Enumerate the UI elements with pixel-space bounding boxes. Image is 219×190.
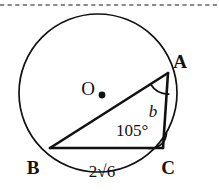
angle-label-c: 105° <box>116 121 148 140</box>
circle-center-dot <box>99 92 106 99</box>
side-label-ca: b <box>149 102 158 121</box>
circle-center-label: O <box>81 78 95 99</box>
vertex-label-b: B <box>27 157 40 178</box>
figure-canvas: O A B C 2√6 b 105° <box>0 0 219 190</box>
vertex-label-c: C <box>161 157 175 178</box>
vertex-label-a: A <box>173 51 187 72</box>
side-label-bc: 2√6 <box>89 162 115 181</box>
geometry-figure: O A B C 2√6 b 105° <box>0 0 219 190</box>
